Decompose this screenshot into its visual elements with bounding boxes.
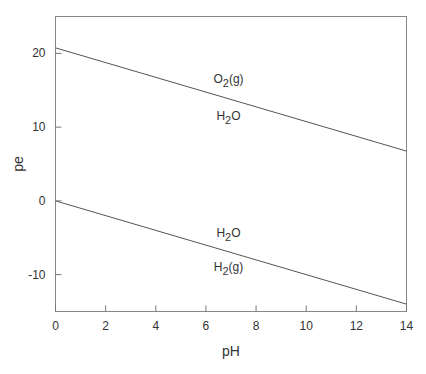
x-tick-label: 0 <box>52 319 59 333</box>
region-label: O2(g) <box>213 72 243 89</box>
boundary-line-1 <box>56 201 407 304</box>
y-axis-ticks: -1001020 <box>28 46 61 281</box>
x-tick-label: 10 <box>300 319 314 333</box>
x-axis-ticks: 02468101214 <box>52 306 413 333</box>
y-axis-label: pe <box>10 156 26 172</box>
pe-ph-diagram: 02468101214 -1001020 O2(g)H2OH2OH2(g) pH… <box>0 0 426 374</box>
y-tick-label: -10 <box>28 268 46 282</box>
boundary-line-0 <box>56 48 407 151</box>
region-label: H2(g) <box>214 260 243 277</box>
x-tick-label: 2 <box>102 319 109 333</box>
x-tick-label: 8 <box>253 319 260 333</box>
region-label: H2O <box>216 226 240 243</box>
x-tick-label: 14 <box>400 319 414 333</box>
x-tick-label: 6 <box>203 319 210 333</box>
x-tick-label: 12 <box>350 319 364 333</box>
region-labels: O2(g)H2OH2OH2(g) <box>213 72 243 277</box>
region-label: H2O <box>216 109 240 126</box>
y-tick-label: 10 <box>32 120 46 134</box>
y-tick-label: 0 <box>39 194 46 208</box>
x-tick-label: 4 <box>152 319 159 333</box>
x-axis-label: pH <box>222 343 240 359</box>
y-tick-label: 20 <box>32 46 46 60</box>
